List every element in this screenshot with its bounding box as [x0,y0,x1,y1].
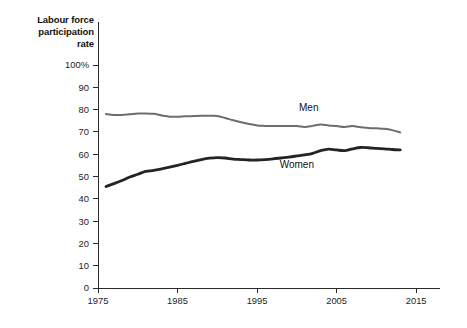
y-tick-label: 40 [79,193,89,204]
line-chart-plot: 0102030405060708090100% 1975198519952005… [0,0,467,328]
y-tick-label: 70 [79,126,89,137]
series-label-women: Women [280,159,314,170]
x-tick-label: 2015 [406,295,427,306]
x-tick-label: 1975 [88,295,109,306]
series-label-men: Men [299,102,318,113]
y-tick-label: 90 [79,82,89,93]
y-tick-label: 20 [79,238,89,249]
series-line-men [106,113,400,132]
y-tick-label: 50 [79,171,89,182]
y-tick-label: 80 [79,104,89,115]
x-tick-label: 1985 [167,295,188,306]
x-axis: 19751985199520052015 [88,288,440,306]
y-axis: 0102030405060708090100% [65,22,98,293]
series-lines [106,113,400,186]
series-line-women [106,147,400,186]
y-tick-label: 30 [79,216,89,227]
chart-figure: Labour force participation rate 01020304… [0,0,467,328]
y-tick-label: 60 [79,149,89,160]
x-tick-label: 1995 [247,295,268,306]
y-tick-label: 100% [65,59,89,70]
y-tick-label: 0 [84,282,89,293]
series-annotations: MenWomen [280,102,319,170]
y-tick-label: 10 [79,260,89,271]
x-tick-label: 2005 [326,295,347,306]
